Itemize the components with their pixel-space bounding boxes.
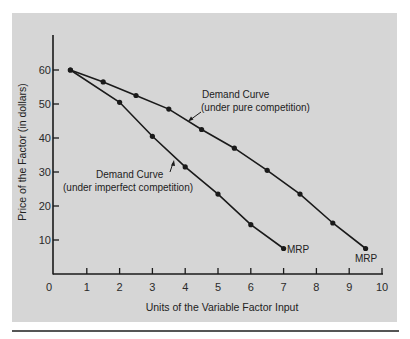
bottom-rule	[12, 330, 399, 332]
x-tick-label: 6	[248, 281, 254, 293]
x-tick-label: 2	[117, 281, 123, 293]
imperfect-label-line2: (under imperfect competition)	[63, 182, 193, 193]
data-point	[68, 67, 73, 72]
data-point	[166, 107, 171, 112]
data-point	[133, 93, 138, 98]
x-tick-label: 7	[281, 281, 287, 293]
data-point	[117, 100, 122, 105]
y-tick-label: 60	[39, 64, 51, 76]
x-tick-label: 10	[376, 281, 388, 293]
data-point	[281, 246, 286, 251]
data-point	[150, 134, 155, 139]
x-tick-label: 4	[182, 281, 188, 293]
y-tick-label: 50	[39, 98, 51, 110]
x-tick-label: 1	[84, 281, 90, 293]
y-tick-label: 20	[39, 200, 51, 212]
data-point	[215, 192, 220, 197]
data-point	[232, 146, 237, 151]
data-point	[183, 164, 188, 169]
imperfect-label-line1: Demand Curve	[96, 169, 164, 180]
y-tick-label: 30	[39, 166, 51, 178]
data-point	[297, 192, 302, 197]
data-point	[330, 220, 335, 225]
x-tick-label: 0	[46, 281, 52, 293]
x-ticks: 012345678910	[46, 268, 388, 293]
pure-arrow-head-icon	[188, 117, 194, 122]
pure-label-line2: (under pure competition)	[201, 102, 310, 113]
y-ticks: 102030405060	[39, 64, 59, 246]
y-tick-label: 40	[39, 132, 51, 144]
x-tick-label: 3	[149, 281, 155, 293]
x-tick-label: 5	[215, 281, 221, 293]
imperfect-arrow-head-icon	[171, 160, 175, 166]
x-tick-label: 9	[346, 281, 352, 293]
data-point	[363, 246, 368, 251]
chart-svg: 012345678910 102030405060 Demand Curve (…	[0, 0, 410, 339]
mrp-label-pure: MRP	[355, 253, 378, 264]
pure-label-line1: Demand Curve	[202, 89, 270, 100]
x-tick-label: 8	[313, 281, 319, 293]
mrp-label-imperfect: MRP	[287, 244, 310, 255]
x-axis-title: Units of the Variable Factor Input	[146, 301, 299, 313]
data-point	[265, 168, 270, 173]
y-axis-title: Price of the Factor (in dollars)	[16, 83, 28, 221]
y-tick-label: 10	[39, 234, 51, 246]
data-point	[199, 127, 204, 132]
data-point	[248, 222, 253, 227]
data-point	[101, 79, 106, 84]
